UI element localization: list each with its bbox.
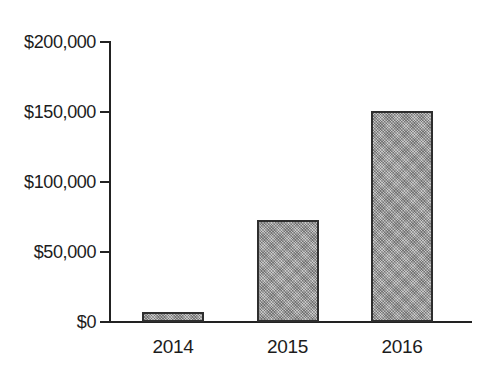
y-tick [100, 321, 110, 323]
bar-chart-figure: $0$50,000$100,000$150,000$200,000 201420… [0, 0, 493, 374]
y-tick [100, 181, 110, 183]
bar-2015 [257, 220, 319, 322]
y-tick [100, 41, 110, 43]
y-tick-label: $0 [0, 312, 96, 332]
y-tick [100, 251, 110, 253]
y-tick-label: $50,000 [0, 242, 96, 262]
y-tick [100, 111, 110, 113]
bar-2016 [371, 111, 433, 322]
y-tick-label: $200,000 [0, 32, 96, 52]
y-tick-label: $100,000 [0, 172, 96, 192]
x-label-2016: 2016 [357, 336, 447, 358]
x-label-2014: 2014 [128, 336, 218, 358]
y-tick-label: $150,000 [0, 102, 96, 122]
x-label-2015: 2015 [243, 336, 333, 358]
bar-2014 [142, 312, 204, 322]
